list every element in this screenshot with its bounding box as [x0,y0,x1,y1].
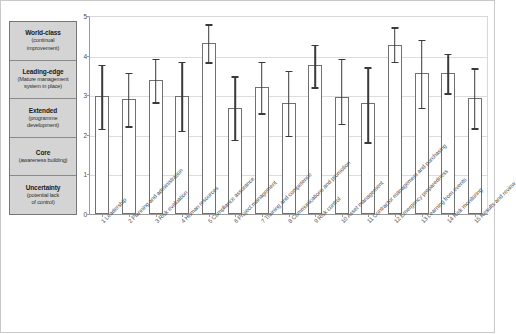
y-tick-label: 1 [73,171,87,178]
error-bar-cap-lower [445,93,452,95]
error-bar-cap-upper [391,27,398,29]
error-bar [128,73,130,126]
error-bar [474,68,476,128]
error-bar-cap-lower [418,108,425,110]
error-bar-cap-upper [365,67,372,69]
error-bar-cap-lower [125,126,132,128]
y-tick-label: 2 [73,131,87,138]
maturity-level-title: Core [36,149,50,157]
maturity-legend: World-class(continualimprovement)Leading… [9,21,77,215]
maturity-level-subtitle: system in place) [24,83,62,90]
maturity-level-world-class: World-class(continualimprovement) [10,22,76,61]
error-bar-cap-lower [338,124,345,126]
error-bar-cap-upper [99,65,106,67]
gridline [90,57,487,58]
error-bar [208,24,210,62]
error-bar [235,76,237,139]
maturity-level-extended: Extended(programmedevelopment) [10,99,76,138]
error-bar-cap-upper [232,76,239,78]
y-tick-label: 0 [73,211,87,218]
error-bar-cap-lower [285,136,292,138]
maturity-level-leading-edge: Leading-edge(Mature managementsystem in … [10,61,76,100]
maturity-level-title: World-class [25,29,61,37]
error-bar-cap-upper [418,40,425,42]
error-bar-cap-lower [99,129,106,131]
maturity-level-subtitle: (awareness building) [19,157,68,164]
error-bar-cap-upper [125,73,132,75]
error-bar-cap-lower [232,140,239,142]
maturity-level-subtitle: (potential lack [27,192,59,199]
error-bar-cap-upper [258,62,265,64]
error-bar-cap-upper [205,24,212,26]
error-bar-cap-lower [365,142,372,144]
maturity-level-subtitle: improvement) [27,45,59,52]
error-bar [394,27,396,61]
error-bar-cap-upper [285,71,292,73]
error-bar-cap-lower [205,62,212,64]
error-bar-cap-lower [258,113,265,115]
error-bar [102,65,104,129]
maturity-level-uncertainty: Uncertainty(potential lackof control) [10,176,76,214]
error-bar-cap-upper [338,59,345,61]
error-bar-cap-upper [179,62,186,64]
error-bar-cap-upper [445,54,452,56]
error-bar [447,54,449,94]
maturity-level-subtitle: of control) [31,199,54,206]
maturity-level-subtitle: (Mature management [18,76,69,83]
maturity-level-title: Extended [29,107,57,115]
maturity-level-subtitle: (continual [32,37,55,44]
error-bar [181,62,183,131]
y-tick-label: 4 [73,52,87,59]
error-bar [288,71,290,136]
y-tick-label: 5 [73,13,87,20]
maturity-level-subtitle: (programme [29,115,58,122]
error-bar [314,45,316,88]
error-bar [421,40,423,108]
maturity-level-core: Core(awareness building) [10,138,76,177]
maturity-level-subtitle: development) [27,122,59,129]
maturity-level-title: Leading-edge [22,68,63,76]
error-bar-cap-lower [179,131,186,133]
error-bar [261,62,263,113]
y-axis: 012345 [71,16,87,216]
error-bar [341,59,343,124]
maturity-level-title: Uncertainty [26,184,61,192]
error-bar-cap-upper [312,45,319,47]
error-bar-cap-lower [471,128,478,130]
error-bar-cap-lower [391,62,398,64]
error-bar [155,59,157,103]
error-bar-cap-upper [152,59,159,61]
y-tick-label: 3 [73,92,87,99]
error-bar-cap-lower [312,87,319,89]
error-bar [368,67,370,141]
error-bar-cap-lower [152,102,159,104]
error-bar-cap-upper [471,68,478,70]
